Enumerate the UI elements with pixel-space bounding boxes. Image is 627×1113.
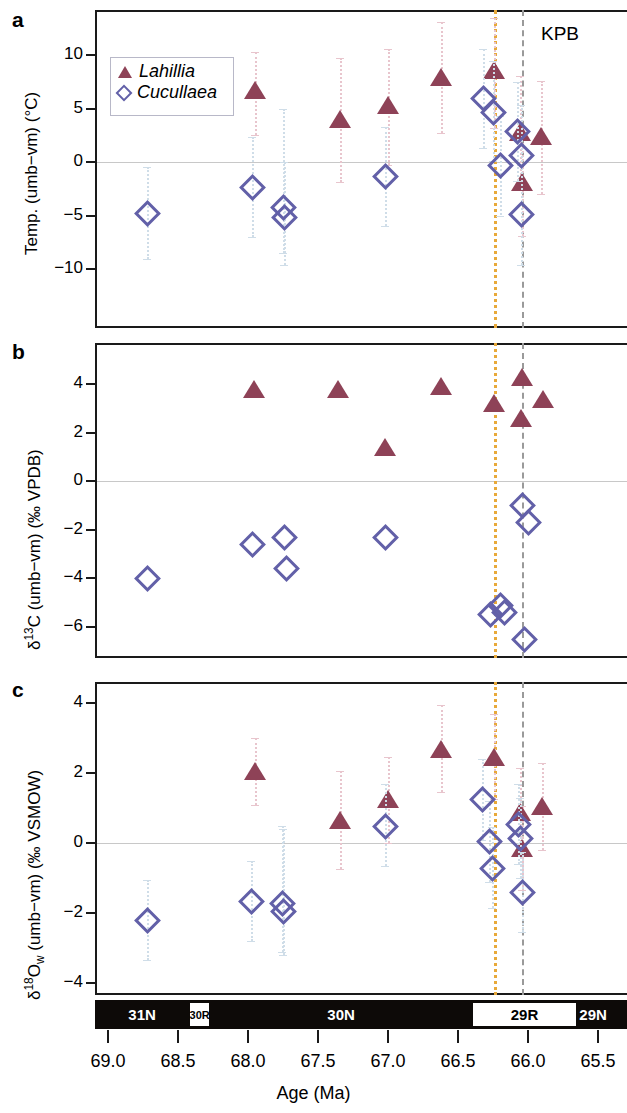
datapoint-a-lahillia-7 bbox=[530, 127, 552, 145]
y-axis-title-c: δ18Ow (umb−vm) (‰ VSMOW) bbox=[22, 770, 47, 1000]
panel-letter-c: c bbox=[12, 678, 24, 702]
kpb-label: KPB bbox=[541, 23, 579, 45]
ytick-c-4 bbox=[86, 982, 97, 984]
error-cap-c-cucullaea-5-0 bbox=[478, 759, 486, 760]
magnetochron-29N: 29N bbox=[577, 1002, 609, 1027]
ytick-c-1 bbox=[86, 772, 97, 774]
ytick-b-4 bbox=[86, 577, 97, 579]
error-cap-a-lahillia-3-1 bbox=[437, 133, 445, 134]
datapoint-b-lahillia-2 bbox=[374, 438, 396, 456]
error-cap-c-cucullaea-3-1 bbox=[279, 955, 287, 956]
ytick-a-1 bbox=[86, 108, 97, 110]
error-cap-c-cucullaea-1-0 bbox=[247, 861, 255, 862]
error-cap-c-lahillia-0-0 bbox=[251, 738, 259, 739]
error-cap-c-cucullaea-4-1 bbox=[381, 866, 389, 867]
legend-label: Cucullaea bbox=[137, 82, 217, 103]
datapoint-c-lahillia-1 bbox=[329, 811, 351, 829]
error-cap-c-cucullaea-9-0 bbox=[516, 798, 524, 799]
error-cap-c-cucullaea-10-1 bbox=[518, 932, 526, 933]
triangle-icon bbox=[118, 66, 132, 78]
xtick-0 bbox=[107, 1030, 109, 1043]
ytick-b-0 bbox=[86, 383, 97, 385]
panel-letter-a: a bbox=[12, 8, 24, 32]
datapoint-c-lahillia-7 bbox=[531, 797, 553, 815]
plot-frame-c bbox=[95, 682, 627, 995]
error-cap-c-lahillia-5-0 bbox=[516, 768, 524, 769]
error-cap-a-cucullaea-6-0 bbox=[489, 61, 497, 62]
datapoint-b-lahillia-1 bbox=[327, 380, 349, 398]
error-cap-a-cucullaea-0-0 bbox=[143, 167, 151, 168]
datapoint-c-lahillia-0 bbox=[244, 762, 266, 780]
error-cap-a-lahillia-1-0 bbox=[336, 58, 344, 59]
legend: LahilliaCucullaea bbox=[110, 57, 234, 116]
zero-line-a bbox=[95, 162, 627, 163]
zero-line-b bbox=[95, 481, 627, 482]
magnetochron-30R: 30R bbox=[189, 1002, 210, 1027]
error-cap-a-lahillia-0-1 bbox=[251, 135, 259, 136]
error-cap-a-lahillia-3-0 bbox=[437, 22, 445, 23]
xtick-label-7: 65.5 bbox=[568, 1051, 627, 1072]
error-cap-a-lahillia-1-1 bbox=[336, 182, 344, 183]
error-cap-c-cucullaea-3-0 bbox=[279, 829, 287, 830]
datapoint-b-lahillia-6 bbox=[510, 409, 532, 427]
error-cap-c-lahillia-1-1 bbox=[336, 869, 344, 870]
ytick-b-3 bbox=[86, 529, 97, 531]
xtick-1 bbox=[177, 1030, 179, 1043]
error-cap-c-lahillia-4-0 bbox=[490, 714, 498, 715]
error-cap-c-lahillia-3-0 bbox=[437, 705, 445, 706]
datapoint-b-lahillia-4 bbox=[483, 394, 505, 412]
xtick-label-4: 67.0 bbox=[358, 1051, 418, 1072]
legend-item-lahillia[interactable]: Lahillia bbox=[117, 61, 227, 82]
magnetochron-31N: 31N bbox=[95, 1002, 189, 1027]
xtick-5 bbox=[457, 1030, 459, 1043]
error-cap-a-cucullaea-1-1 bbox=[248, 237, 256, 238]
panel-letter-b: b bbox=[12, 340, 25, 364]
xtick-label-3: 67.5 bbox=[288, 1051, 348, 1072]
ytick-label-b-0: 4 bbox=[33, 373, 83, 393]
error-cap-c-cucullaea-7-1 bbox=[488, 908, 496, 909]
figure-root: 1050−5−10420−2−4−6420−2−4abcTemp. (umb−v… bbox=[0, 0, 627, 1113]
legend-item-cucullaea[interactable]: Cucullaea bbox=[117, 82, 227, 103]
error-cap-a-cucullaea-7-0 bbox=[513, 82, 521, 83]
legend-label: Lahillia bbox=[139, 61, 195, 82]
ytick-a-0 bbox=[86, 54, 97, 56]
xtick-6 bbox=[527, 1030, 529, 1043]
error-cap-a-lahillia-7-1 bbox=[537, 194, 545, 195]
datapoint-a-lahillia-3 bbox=[430, 68, 452, 86]
ytick-b-1 bbox=[86, 432, 97, 434]
magnetochron-29R: 29R bbox=[472, 1002, 577, 1027]
error-cap-c-cucullaea-8-0 bbox=[514, 784, 522, 785]
error-cap-a-cucullaea-7-1 bbox=[513, 181, 521, 182]
ytick-a-3 bbox=[86, 215, 97, 217]
xtick-label-1: 68.5 bbox=[148, 1051, 208, 1072]
error-cap-a-cucullaea-3-1 bbox=[280, 265, 288, 266]
zero-line-c bbox=[95, 843, 627, 844]
error-cap-c-lahillia-7-0 bbox=[538, 763, 546, 764]
xtick-label-2: 68.0 bbox=[218, 1051, 278, 1072]
magnetochron-30N: 30N bbox=[210, 1002, 472, 1027]
ytick-label-c-0: 4 bbox=[33, 692, 83, 712]
xtick-2 bbox=[247, 1030, 249, 1043]
xtick-label-0: 69.0 bbox=[78, 1051, 138, 1072]
error-cap-c-lahillia-0-1 bbox=[251, 805, 259, 806]
ytick-b-5 bbox=[86, 626, 97, 628]
error-cap-a-cucullaea-2-0 bbox=[279, 109, 287, 110]
error-cap-c-lahillia-7-1 bbox=[538, 850, 546, 851]
ytick-c-0 bbox=[86, 702, 97, 704]
datapoint-a-lahillia-1 bbox=[329, 110, 351, 128]
error-cap-a-cucullaea-8-0 bbox=[517, 105, 525, 106]
error-cap-a-cucullaea-3-0 bbox=[280, 162, 288, 163]
error-cap-a-cucullaea-1-0 bbox=[248, 137, 256, 138]
datapoint-b-lahillia-7 bbox=[532, 390, 554, 408]
xtick-label-5: 66.5 bbox=[428, 1051, 488, 1072]
error-cap-c-cucullaea-4-0 bbox=[381, 784, 389, 785]
error-cap-c-cucullaea-1-1 bbox=[247, 941, 255, 942]
ytick-c-3 bbox=[86, 912, 97, 914]
ytick-a-4 bbox=[86, 268, 97, 270]
error-cap-a-cucullaea-0-1 bbox=[143, 259, 151, 260]
error-cap-a-cucullaea-10-1 bbox=[517, 265, 525, 266]
error-cap-c-lahillia-1-0 bbox=[336, 771, 344, 772]
error-cap-c-lahillia-3-1 bbox=[437, 792, 445, 793]
error-cap-c-cucullaea-2-0 bbox=[278, 826, 286, 827]
ytick-b-2 bbox=[86, 480, 97, 482]
